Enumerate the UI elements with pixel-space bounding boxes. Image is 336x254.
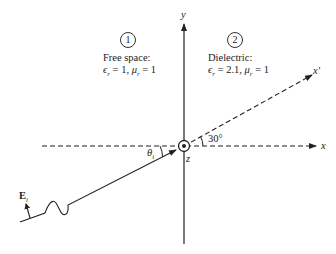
incident-field-label: Ei <box>19 190 28 206</box>
region-1-marker: 1 <box>120 32 136 48</box>
z-axis-label: z <box>186 153 190 165</box>
region-2-params: ϵr = 2.1, μr = 1 <box>208 64 269 80</box>
rotation-angle-label: 30° <box>208 133 223 145</box>
x-prime-axis-label: x′ <box>313 65 320 77</box>
diagram-canvas <box>0 0 336 254</box>
incidence-angle-label: θi <box>147 147 154 163</box>
region-1-params: ϵr = 1, μr = 1 <box>103 64 156 80</box>
region-2-marker: 2 <box>227 32 243 48</box>
rotation-angle-arc <box>201 137 203 146</box>
x-prime-axis <box>184 75 312 146</box>
z-axis-out-of-page-icon <box>179 141 190 152</box>
incidence-angle-arc <box>160 146 163 157</box>
region-2-name: Dielectric: <box>208 52 252 64</box>
e-field-arrow <box>26 204 30 218</box>
region-1-name: Free space: <box>103 52 151 64</box>
y-axis-label: y <box>181 9 186 21</box>
x-axis-label: x <box>321 140 326 152</box>
plane-wave-incidence-diagram: y x x′ z 1 Free space: ϵr = 1, μr = 1 2 … <box>0 0 336 254</box>
